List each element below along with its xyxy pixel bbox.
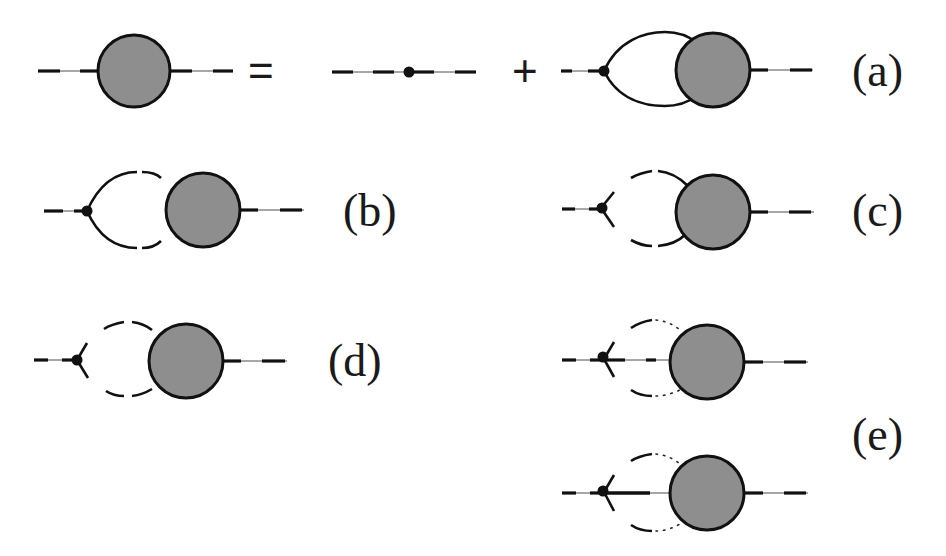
self-energy-blob bbox=[166, 173, 240, 247]
panel-d: (d) bbox=[34, 322, 382, 398]
panel-label-c: (c) bbox=[852, 185, 903, 236]
self-energy-blob bbox=[676, 33, 750, 107]
panel-e-diagram-1 bbox=[562, 320, 808, 399]
vertex-dot bbox=[598, 352, 609, 363]
panel-label-e: (e) bbox=[852, 409, 903, 460]
self-energy-blob bbox=[149, 324, 223, 398]
equals-sign: = bbox=[248, 46, 274, 95]
panel-label-d: (d) bbox=[328, 335, 382, 386]
panel-e-diagram-2 bbox=[562, 454, 808, 531]
loop-correction-diagram bbox=[561, 32, 813, 107]
vertex-dot bbox=[597, 203, 608, 214]
vertex-dot bbox=[72, 355, 83, 366]
bare-propagator-diagram bbox=[332, 67, 476, 78]
panel-label-b: (b) bbox=[343, 185, 397, 236]
vertex-dot bbox=[598, 486, 609, 497]
vertex-dot bbox=[82, 206, 93, 217]
vertex-dot bbox=[404, 67, 415, 78]
panel-c: (c) bbox=[562, 171, 903, 249]
plus-sign: + bbox=[512, 46, 538, 95]
panel-label-a: (a) bbox=[852, 45, 903, 96]
panel-b: (b) bbox=[44, 172, 397, 248]
figure-canvas: = + (a) bbox=[0, 0, 946, 556]
full-propagator-diagram bbox=[38, 35, 233, 107]
self-energy-blob bbox=[98, 35, 170, 107]
equation-a: = + (a) bbox=[38, 32, 903, 107]
self-energy-blob bbox=[670, 456, 744, 530]
self-energy-blob bbox=[676, 175, 750, 249]
vertex-dot bbox=[599, 66, 610, 77]
self-energy-blob bbox=[670, 325, 744, 399]
